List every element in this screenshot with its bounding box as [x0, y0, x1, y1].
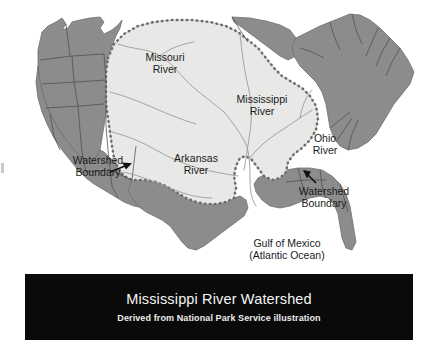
caption-title: Mississippi River Watershed [126, 291, 312, 307]
caption-subtitle: Derived from National Park Service illus… [117, 313, 320, 323]
edge-artifact [1, 163, 4, 173]
caption-bar: Mississippi River Watershed Derived from… [25, 274, 413, 340]
watershed-map-figure: Missouri River Mississippi River Ohio Ri… [0, 0, 431, 353]
map-canvas: Missouri River Mississippi River Ohio Ri… [0, 0, 431, 272]
usa-watershed-map-svg [0, 0, 431, 272]
